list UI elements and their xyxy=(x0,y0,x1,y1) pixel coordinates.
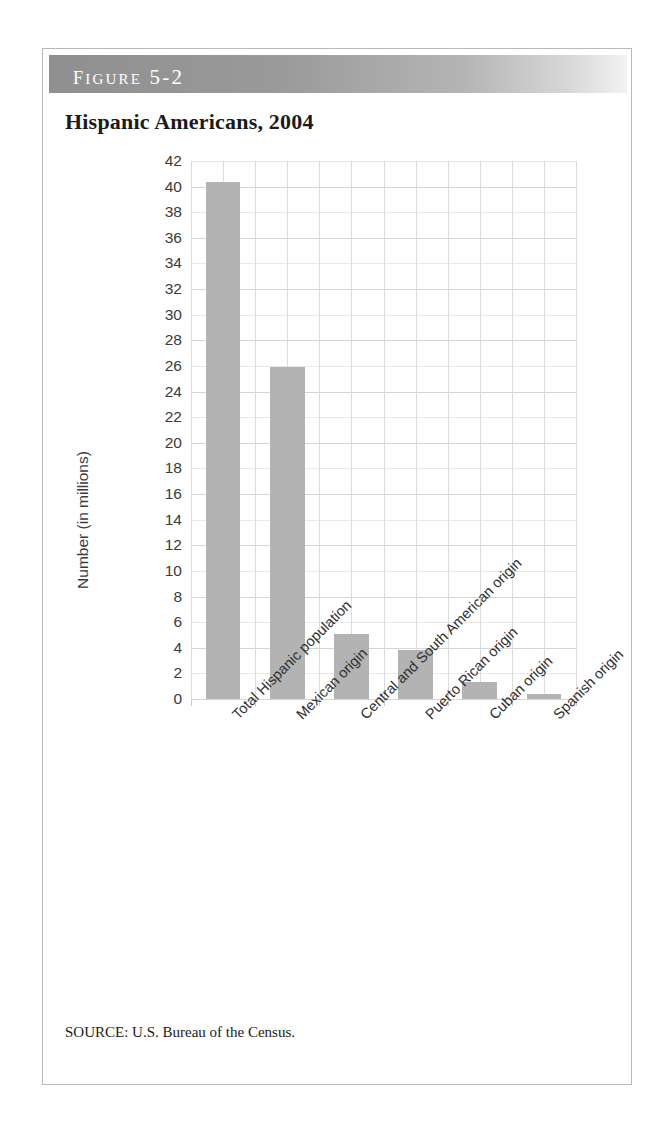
y-axis-tick-label: 28 xyxy=(165,331,182,349)
figure-banner: Figure 5-2 xyxy=(49,55,627,93)
y-axis-tick-label: 16 xyxy=(165,485,182,503)
y-axis-tick-label: 20 xyxy=(165,434,182,452)
y-axis-tick-label: 12 xyxy=(165,536,182,554)
gridline xyxy=(191,161,192,699)
y-axis-tick-label: 26 xyxy=(165,357,182,375)
y-axis-tick-label: 0 xyxy=(173,690,182,708)
y-axis-tick-label: 32 xyxy=(165,280,182,298)
gridline xyxy=(384,161,385,699)
y-axis-tick-label: 10 xyxy=(165,562,182,580)
y-axis-tick-label: 34 xyxy=(165,254,182,272)
plot-area: 024681012141618202224262830323436384042 xyxy=(191,161,576,699)
y-axis-tick-label: 40 xyxy=(165,178,182,196)
y-axis-tick-label: 30 xyxy=(165,306,182,324)
y-axis-tick-label: 42 xyxy=(165,152,182,170)
gridline xyxy=(512,161,513,699)
y-axis-tick-label: 8 xyxy=(173,588,182,606)
y-axis-tick-label: 24 xyxy=(165,383,182,401)
gridline xyxy=(351,161,352,699)
y-axis-tick-label: 22 xyxy=(165,408,182,426)
bar-chart: Number (in millions) 0246810121416182022… xyxy=(43,121,631,1001)
figure-number-label: Figure 5-2 xyxy=(73,62,184,90)
y-axis-tick-label: 18 xyxy=(165,459,182,477)
bar xyxy=(527,694,562,699)
bar xyxy=(206,182,241,700)
y-axis-tick-label: 36 xyxy=(165,229,182,247)
gridline xyxy=(255,161,256,699)
y-axis-tick-label: 14 xyxy=(165,511,182,529)
x-axis-tick xyxy=(191,699,192,706)
figure-source-note: SOURCE: U.S. Bureau of the Census. xyxy=(65,1024,295,1041)
y-axis-title: Number (in millions) xyxy=(74,405,92,635)
gridline xyxy=(576,161,577,699)
y-axis-tick-label: 4 xyxy=(173,639,182,657)
gridline xyxy=(480,161,481,699)
gridline xyxy=(416,161,417,699)
y-axis-tick-label: 6 xyxy=(173,613,182,631)
gridline xyxy=(544,161,545,699)
y-axis-tick-label: 38 xyxy=(165,203,182,221)
figure-container: Figure 5-2 Hispanic Americans, 2004 Numb… xyxy=(42,48,632,1085)
y-axis-tick-label: 2 xyxy=(173,664,182,682)
